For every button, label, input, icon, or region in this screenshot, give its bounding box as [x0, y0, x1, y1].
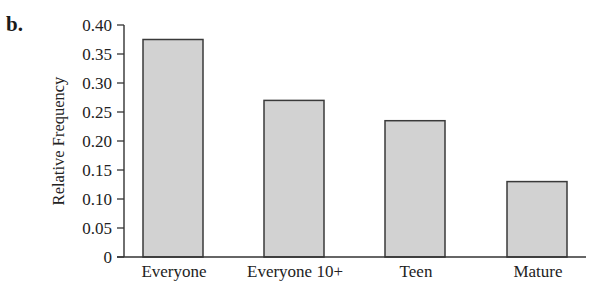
- y-tick-label: 0.25: [82, 103, 112, 122]
- y-tick-label: 0.40: [82, 16, 112, 35]
- y-tick-label: 0.10: [82, 190, 112, 209]
- bars: [143, 40, 567, 258]
- x-axis: EveryoneEveryone 10+TeenMature: [117, 257, 586, 281]
- y-axis: 00.050.100.150.200.250.300.350.40: [82, 16, 124, 267]
- bar-teen: [385, 121, 445, 257]
- bar-chart: 00.050.100.150.200.250.300.350.40 Everyo…: [0, 0, 589, 292]
- x-tick-label: Mature: [513, 262, 562, 281]
- bar-everyone-10-: [264, 100, 324, 257]
- x-tick-label: Everyone 10+: [247, 262, 343, 281]
- y-tick-label: 0.15: [82, 161, 112, 180]
- y-tick-label: 0.35: [82, 45, 112, 64]
- y-axis-label: Relative Frequency: [49, 76, 68, 205]
- x-tick-label: Teen: [400, 262, 433, 281]
- bar-mature: [507, 182, 567, 257]
- y-tick-label: 0.30: [82, 74, 112, 93]
- y-tick-label: 0: [104, 248, 113, 267]
- y-tick-label: 0.05: [82, 219, 112, 238]
- bar-everyone: [143, 40, 203, 258]
- y-tick-label: 0.20: [82, 132, 112, 151]
- x-tick-label: Everyone: [141, 262, 206, 281]
